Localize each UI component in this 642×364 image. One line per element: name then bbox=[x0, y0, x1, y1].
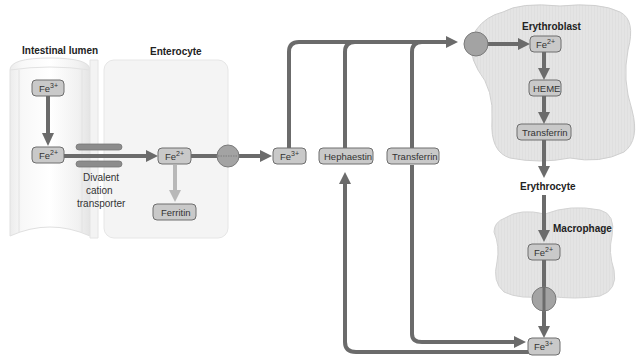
node-hephaestin: Hephaestin bbox=[319, 148, 373, 164]
label-transporter-line1: Divalent bbox=[83, 172, 119, 183]
transferrin-receptor-erythroblast bbox=[464, 32, 488, 56]
label-macrophage: Macrophage bbox=[553, 223, 612, 234]
node-erythroblast-fe2: Fe2+ bbox=[530, 36, 561, 52]
label-transporter-line3: transporter bbox=[77, 198, 126, 209]
node-macrophage-fe2: Fe2+ bbox=[528, 244, 560, 260]
svg-text:HEME: HEME bbox=[533, 83, 560, 94]
svg-text:Transferrin: Transferrin bbox=[522, 127, 568, 138]
node-enterocyte-fe2: Fe2+ bbox=[158, 148, 191, 164]
svg-text:Transferrin: Transferrin bbox=[392, 151, 438, 162]
node-heme: HEME bbox=[529, 80, 561, 96]
node-transferrin-erythroblast: Transferrin bbox=[517, 124, 571, 140]
node-plasma-fe3: Fe3+ bbox=[273, 148, 306, 164]
node-transferrin-plasma: Transferrin bbox=[387, 148, 439, 164]
node-ferritin: Ferritin bbox=[153, 204, 196, 220]
label-intestinal-lumen: Intestinal lumen bbox=[22, 45, 98, 56]
label-transporter-line2: cation bbox=[86, 185, 113, 196]
arrow-fe3-up bbox=[289, 42, 446, 148]
label-erythroblast: Erythroblast bbox=[522, 21, 582, 32]
label-enterocyte: Enterocyte bbox=[150, 46, 202, 57]
label-erythrocyte: Erythrocyte bbox=[520, 181, 576, 192]
node-lumen-fe3: Fe3+ bbox=[32, 80, 64, 96]
svg-text:Ferritin: Ferritin bbox=[161, 207, 191, 218]
node-macrophage-fe3: Fe3+ bbox=[528, 338, 560, 355]
iron-metabolism-diagram: Intestinal lumen Enterocyte Erythroblast… bbox=[0, 0, 642, 364]
node-lumen-fe2: Fe2+ bbox=[32, 147, 64, 163]
svg-text:Hephaestin: Hephaestin bbox=[324, 151, 372, 162]
